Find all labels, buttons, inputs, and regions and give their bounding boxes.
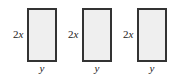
- rectangle-group-3: 2x y: [110, 0, 168, 79]
- width-label: y: [137, 63, 167, 74]
- width-label: y: [27, 63, 57, 74]
- height-variable: x: [129, 28, 134, 40]
- rectangle: [27, 8, 57, 62]
- height-variable: x: [19, 28, 24, 40]
- rectangle: [137, 8, 167, 62]
- height-label: 2x: [123, 29, 133, 40]
- height-label: 2x: [68, 29, 78, 40]
- height-label: 2x: [13, 29, 23, 40]
- rectangle-group-1: 2x y: [0, 0, 58, 79]
- height-variable: x: [74, 28, 79, 40]
- width-label: y: [82, 63, 112, 74]
- rectangle: [82, 8, 112, 62]
- rectangle-group-2: 2x y: [55, 0, 113, 79]
